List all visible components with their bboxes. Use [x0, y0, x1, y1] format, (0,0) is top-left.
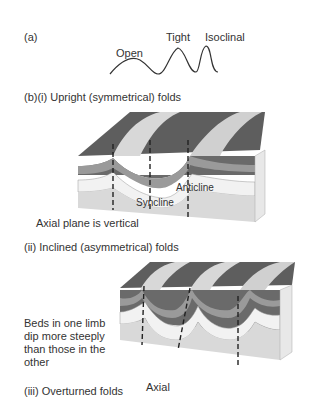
syncline-label: Syncline — [136, 198, 174, 208]
upright-folds-title: (b)(i) Upright (symmetrical) folds — [24, 92, 181, 103]
inclined-caption-line: dip more steeply — [24, 331, 105, 342]
inclined-caption-line: than those in the — [24, 344, 105, 355]
inclined-caption-line: Beds in one limb — [24, 318, 105, 329]
anticline-label: Anticline — [176, 183, 214, 193]
block2-side — [280, 285, 292, 360]
inclined-fold-block — [120, 262, 295, 365]
fold-wave — [110, 46, 218, 74]
overturned-folds-title: (iii) Overturned folds — [24, 386, 123, 397]
block1-side — [255, 150, 265, 222]
axial-label: Axial — [146, 382, 170, 393]
inclined-caption-line: other — [24, 357, 49, 368]
inclined-folds-title: (ii) Inclined (asymmetrical) folds — [24, 242, 179, 253]
upright-caption: Axial plane is vertical — [36, 218, 139, 229]
